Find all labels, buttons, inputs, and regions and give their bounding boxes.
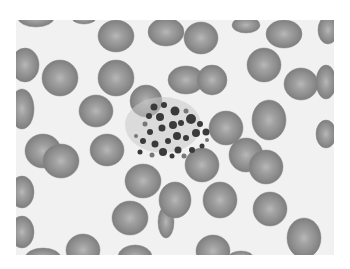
micrograph-image: [16, 20, 334, 255]
blood-smear-graphic: [16, 20, 334, 255]
